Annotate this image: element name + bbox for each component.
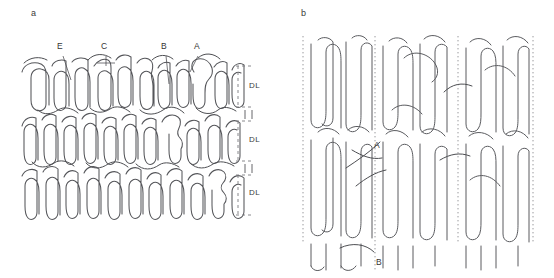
interlayer-mark-1 (245, 110, 252, 119)
panel-a-callout-E: E (57, 41, 63, 51)
panel-b-callout-A: A (374, 140, 380, 150)
panel-b-chains (311, 35, 529, 270)
dl-label-2: DL (249, 135, 260, 144)
panel-a-callout-C: C (101, 41, 107, 51)
panel-b-label: b (301, 8, 306, 18)
leader-B (166, 56, 169, 84)
lamella-band-1 (22, 55, 244, 111)
interlayer-mark-2 (245, 164, 252, 173)
leader-A (190, 56, 198, 72)
lamella-band-2 (22, 113, 240, 164)
leader-E (63, 56, 71, 80)
panel-a-callout-A: A (194, 41, 200, 51)
dl-label-1: DL (249, 81, 260, 90)
lamella-band-3 (22, 167, 244, 220)
figure-canvas: a (0, 0, 554, 278)
tie-cross-4 (340, 245, 374, 252)
panel-b-boundaries (303, 36, 533, 272)
dl-label-3: DL (249, 188, 260, 197)
tie-cross-1 (352, 150, 382, 159)
panel-a-callout-B: B (161, 41, 167, 51)
panel-a-drawing (0, 0, 554, 278)
panel-b-callout-B: B (376, 257, 382, 267)
